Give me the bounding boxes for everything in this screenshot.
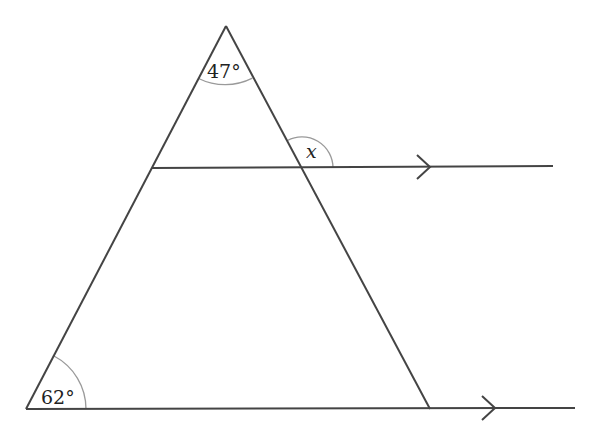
upper-parallel-line [152,166,553,168]
x-angle-label: x [306,142,317,161]
apex-angle-label: 47° [207,62,241,81]
triangle-left-side [26,26,226,409]
diagram-svg [0,0,594,439]
geometry-diagram: 47° x 62° [0,0,594,439]
base-angle-label: 62° [41,388,75,407]
triangle-right-side [226,26,430,409]
